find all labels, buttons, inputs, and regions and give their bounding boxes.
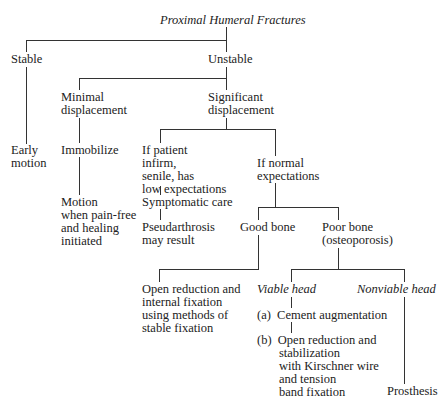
connector-line [79, 157, 80, 195]
connector-line [160, 129, 161, 143]
node-open-reduction-stabilization: (b) Open reduction and stabilization wit… [257, 334, 379, 399]
node-motion: Motion when pain-free and healing initia… [61, 196, 136, 248]
connector-line [291, 297, 292, 308]
connector-line [226, 118, 227, 129]
connector-line [160, 129, 276, 130]
node-pseudarthrosis: Pseudarthrosis may result [142, 221, 215, 247]
connector-line [79, 78, 227, 79]
connector-line [79, 78, 80, 90]
connector-line [258, 207, 339, 208]
connector-line [338, 248, 339, 269]
connector-line [226, 27, 227, 40]
connector-line [26, 67, 27, 144]
node-viable-head: Viable head [257, 283, 316, 296]
connector-line [338, 207, 339, 220]
node-open-reduction-internal-fixation: Open reduction and internal fixation usi… [142, 283, 241, 335]
connector-line [160, 209, 161, 220]
node-nonviable-head: Nonviable head [357, 283, 436, 296]
node-if-normal-expectations: If normal expectations [257, 157, 319, 183]
connector-line [26, 40, 27, 52]
connector-line [291, 322, 292, 333]
connector-line [275, 129, 276, 156]
node-if-patient-infirm: If patient infirm, senile, has low expec… [142, 144, 226, 196]
node-cement-augmentation: (a) Cement augmentation [257, 309, 387, 322]
node-early-motion: Early motion [11, 144, 46, 170]
node-unstable: Unstable [208, 53, 252, 66]
connector-line [26, 40, 227, 41]
node-prosthesis: Prosthesis [387, 385, 438, 398]
connector-line [159, 269, 259, 270]
connector-line [291, 269, 292, 282]
flowchart: Proximal Humeral Fractures Stable Unstab… [0, 0, 442, 401]
connector-line [404, 297, 405, 384]
node-good-bone: Good bone [240, 221, 295, 234]
connector-line [404, 269, 405, 282]
node-immobilize: Immobilize [61, 144, 119, 157]
connector-line [159, 269, 160, 282]
connector-line [79, 118, 80, 143]
node-stable: Stable [11, 53, 42, 66]
node-minimal-displacement: Minimal displacement [61, 91, 127, 117]
connector-line [226, 78, 227, 90]
node-symptomatic-care: Symptomatic care [142, 196, 233, 209]
connector-line [258, 235, 259, 269]
node-poor-bone: Poor bone (osteoporosis) [322, 221, 393, 247]
connector-line [258, 207, 259, 220]
diagram-title: Proximal Humeral Fractures [160, 14, 306, 27]
connector-line [160, 186, 161, 195]
node-significant-displacement: Significant displacement [208, 91, 274, 117]
connector-line [226, 40, 227, 52]
connector-line [275, 183, 276, 207]
connector-line [291, 269, 405, 270]
